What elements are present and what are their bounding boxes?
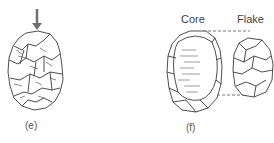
- strike-arrow-icon: [32, 9, 42, 30]
- diagram-canvas: [0, 0, 274, 143]
- caption-f: (f): [186, 123, 195, 133]
- flake-stone: [233, 38, 273, 97]
- caption-e: (e): [25, 121, 37, 131]
- core-stone: [167, 31, 222, 112]
- core-label: Core: [181, 14, 205, 25]
- prepared-core-stone: [8, 31, 63, 110]
- flake-label: Flake: [237, 14, 264, 25]
